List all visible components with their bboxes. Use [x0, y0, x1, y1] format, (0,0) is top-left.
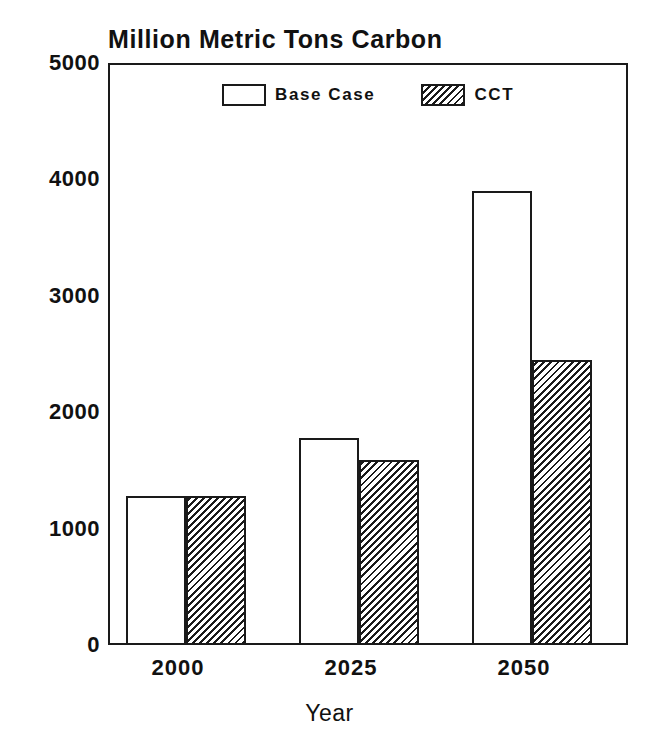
y-tick-label-5000: 5000 — [8, 50, 100, 76]
legend-swatch-cct — [421, 84, 465, 106]
bar-2025-base-case — [299, 438, 359, 645]
chart-legend: Base Case CCT — [222, 82, 514, 108]
chart-figure: Million Metric Tons Carbon 5000 4000 300… — [0, 0, 659, 754]
y-tick-label-0: 0 — [8, 632, 100, 658]
legend-swatch-base-case — [222, 84, 266, 106]
bar-2025-cct — [359, 460, 419, 645]
bar-2050-cct — [532, 360, 592, 645]
legend-label-base-case: Base Case — [275, 85, 375, 105]
legend-entry-cct: CCT — [421, 84, 514, 106]
x-tick-label-2050: 2050 — [454, 655, 594, 681]
bar-2000-cct — [186, 496, 246, 645]
bar-2050-base-case — [472, 191, 532, 645]
chart-title: Million Metric Tons Carbon — [108, 22, 528, 56]
y-tick-label-2000: 2000 — [8, 399, 100, 425]
legend-entry-base-case: Base Case — [222, 84, 375, 106]
y-tick-label-1000: 1000 — [8, 516, 100, 542]
y-tick-label-4000: 4000 — [8, 166, 100, 192]
bar-2000-base-case — [126, 496, 186, 645]
x-tick-label-2025: 2025 — [281, 655, 421, 681]
legend-label-cct: CCT — [474, 85, 514, 105]
plot-area — [108, 63, 628, 645]
x-tick-label-2000: 2000 — [108, 655, 248, 681]
y-axis: 5000 4000 3000 2000 1000 0 — [0, 0, 100, 754]
y-tick-label-3000: 3000 — [8, 283, 100, 309]
x-axis-title: Year — [0, 700, 659, 727]
